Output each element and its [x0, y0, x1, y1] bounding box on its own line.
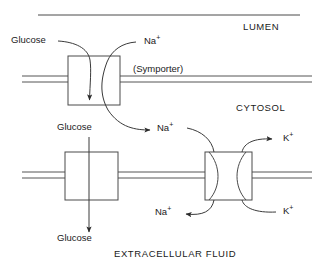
sodium-to-pump-arc: [187, 128, 214, 152]
symporter-box: [68, 56, 120, 105]
charge-sign: +: [289, 204, 293, 211]
sodium-cytosol-symbol: Na: [157, 122, 169, 133]
cytosol-label: CYTOSOL: [236, 103, 285, 113]
apical-membrane: [22, 76, 312, 82]
potassium-influx-arc: [242, 200, 276, 212]
symporter-annotation: (Symporter): [133, 64, 183, 74]
lumen-label: LUMEN: [243, 22, 279, 32]
pump-left-arc: [209, 152, 218, 200]
extracellular-fluid-label: EXTRACELLULAR FLUID: [114, 249, 236, 259]
sodium-influx-arrow: [102, 42, 150, 130]
potassium-efflux-arrow: [242, 139, 272, 152]
glucose-uniporter-box: [65, 152, 118, 200]
charge-sign: +: [169, 121, 173, 128]
sodium-efflux-arrow: [186, 200, 214, 214]
potassium-cytosol-label: K+: [283, 133, 293, 143]
charge-sign: +: [289, 131, 293, 138]
sodium-lumen-symbol: Na: [144, 35, 156, 46]
transport-diagram: LUMEN CYTOSOL EXTRACELLULAR FLUID (Sympo…: [0, 0, 319, 267]
glucose-extracellular-label: Glucose: [57, 233, 92, 243]
charge-sign: +: [167, 205, 171, 212]
glucose-influx-arrow: [58, 41, 91, 100]
sodium-extracellular-label: Na+: [155, 207, 171, 217]
glucose-cytosol-label: Glucose: [57, 122, 92, 132]
sodium-extracellular-symbol: Na: [155, 206, 167, 217]
sodium-cytosol-label: Na+: [157, 123, 173, 133]
charge-sign: +: [156, 34, 160, 41]
sodium-potassium-pump-box: [205, 152, 252, 200]
potassium-extracellular-label: K+: [283, 206, 293, 216]
pump-right-arc: [237, 152, 246, 200]
sodium-lumen-label: Na+: [144, 36, 160, 46]
glucose-lumen-label: Glucose: [11, 35, 46, 45]
